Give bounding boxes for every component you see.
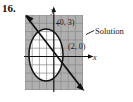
point-label-0-3: (0, 3)	[57, 19, 74, 27]
x-axis-label: x	[93, 54, 97, 62]
point-label-2-0: (2, 0)	[68, 43, 85, 51]
solution-leader-line	[86, 31, 94, 35]
y-axis-label: y	[51, 7, 55, 15]
solution-callout-label: Solution	[95, 27, 124, 36]
graph-svg	[0, 0, 133, 102]
